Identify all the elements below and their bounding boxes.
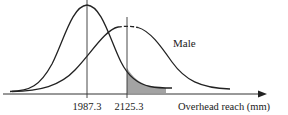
x-axis-arrow-icon xyxy=(258,91,267,98)
x-axis-label: Overhead reach (mm) xyxy=(178,101,271,113)
shaded-tail-area xyxy=(127,68,166,93)
male-curve xyxy=(12,27,118,92)
male-label: Male xyxy=(173,37,196,49)
tick-label-male-mean: 2125.3 xyxy=(115,101,144,112)
tick-label-female-mean: 1987.3 xyxy=(73,101,102,112)
normal-distributions-chart: Male 1987.3 2125.3 Overhead reach (mm) xyxy=(0,0,288,115)
male-curve-peak-dashed xyxy=(118,26,138,27)
female-curve xyxy=(10,5,172,92)
